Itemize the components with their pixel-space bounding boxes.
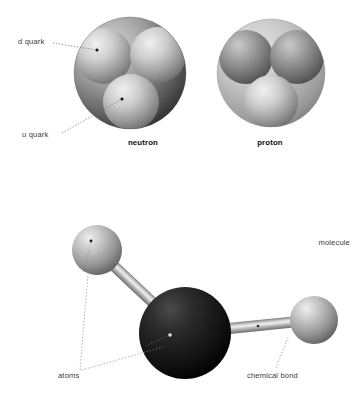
quark-u-lower [103, 74, 159, 130]
neutron-particle [53, 17, 186, 133]
molecule-model [72, 225, 338, 379]
caption-proton: proton [240, 139, 300, 147]
atom-right [290, 296, 338, 344]
atoms-leader-line-upper [80, 274, 88, 370]
particle-molecule-diagram: d quark u quark neutron proton molecule … [0, 0, 361, 400]
quark-u-upper-right [270, 30, 324, 84]
label-d-quark: d quark [18, 38, 44, 46]
caption-neutron: neutron [113, 139, 173, 147]
chemical-bond-leader-line [276, 337, 288, 368]
diagram-canvas [0, 0, 361, 400]
proton-particle [217, 19, 325, 129]
quark-d-upper-right [130, 27, 186, 83]
atom-upper-left [72, 225, 122, 275]
label-molecule: molecule [288, 239, 350, 247]
quark-d-lower [244, 75, 298, 129]
label-atoms: atoms [58, 372, 79, 380]
label-u-quark: u quark [22, 131, 48, 139]
bond-right-marker [257, 325, 260, 328]
label-chemical-bond: chemical bond [247, 372, 298, 380]
atom-central [139, 287, 231, 379]
